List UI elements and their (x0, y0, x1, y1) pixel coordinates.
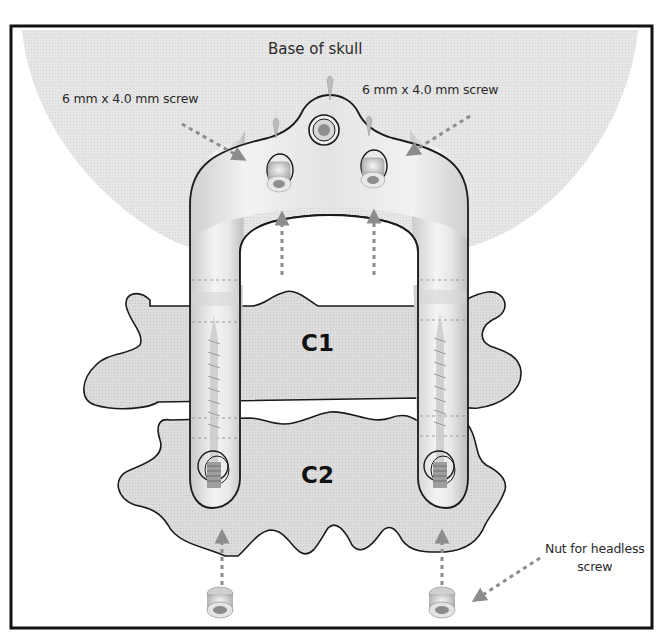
label-nut-line1: Nut for headless (545, 540, 645, 558)
diagram-figure: Base of skull 6 mm x 4.0 mm screw 6 mm x… (0, 0, 661, 642)
label-c1: C1 (301, 330, 334, 356)
occipital-hole (309, 115, 339, 145)
label-screw-right: 6 mm x 4.0 mm screw (362, 82, 498, 97)
label-base-of-skull: Base of skull (268, 40, 362, 58)
label-nut-line2: screw (545, 558, 645, 576)
nut-right (429, 587, 455, 618)
label-c2: C2 (301, 462, 334, 488)
label-nut-headless-screw: Nut for headless screw (545, 540, 645, 576)
nut-left (207, 587, 233, 618)
label-screw-left: 6 mm x 4.0 mm screw (62, 91, 198, 106)
